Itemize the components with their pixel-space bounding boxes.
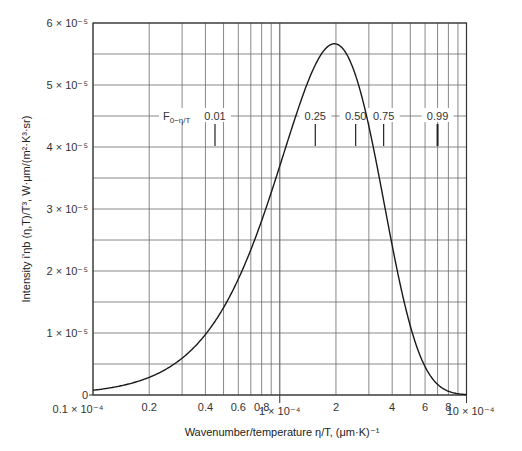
x-tick-label: 1 × 10⁻⁴: [259, 405, 301, 417]
y-tick-label: 4 × 10⁻⁵: [47, 141, 88, 153]
x-tick-label: 0.1 × 10⁻⁴: [53, 403, 104, 415]
x-tick-label: 4: [389, 401, 395, 413]
x-tick-label: 10 × 10⁻⁴: [447, 405, 495, 417]
y-tick-label: 5 × 10⁻⁵: [47, 79, 88, 91]
x-tick-label: 0.4: [198, 401, 213, 413]
fraction-annotations: F0−η/T0.010.250.500.750.99: [159, 108, 454, 146]
y-axis-tick-labels: 01 × 10⁻⁵2 × 10⁻⁵3 × 10⁻⁵4 × 10⁻⁵5 × 10⁻…: [47, 17, 88, 401]
y-tick-label: 0: [82, 389, 88, 401]
x-tick-label: 6: [422, 401, 428, 413]
x-tick-label: 2: [333, 401, 339, 413]
blackbody-intensity-chart: F0−η/T0.010.250.500.750.99 0.1 × 10⁻⁴0.2…: [0, 0, 522, 451]
y-tick-label: 3 × 10⁻⁵: [47, 203, 88, 215]
y-tick-label: 2 × 10⁻⁵: [47, 265, 88, 277]
x-tick-label: 0.2: [142, 401, 157, 413]
fraction-value: 0.75: [373, 110, 394, 122]
fraction-value: 0.25: [305, 110, 326, 122]
x-axis-title: Wavenumber/temperature η/T, (μm·K)⁻¹: [185, 426, 380, 438]
plot-frame: [89, 23, 467, 403]
y-tick-label: 6 × 10⁻⁵: [47, 17, 88, 29]
fraction-value: 0.99: [427, 110, 448, 122]
fraction-value: 0.50: [345, 110, 366, 122]
x-tick-label: 0.6: [231, 401, 246, 413]
grid-lines: [93, 23, 467, 395]
fraction-value: 0.01: [204, 110, 225, 122]
y-tick-label: 1 × 10⁻⁵: [47, 327, 88, 339]
x-axis-tick-labels: 0.1 × 10⁻⁴0.20.40.60.81 × 10⁻⁴246810 × 1…: [53, 401, 495, 417]
y-axis-title: Intensity i'ηb (η,T)/T³, W·μm/(m²·K³·sr): [20, 116, 32, 303]
